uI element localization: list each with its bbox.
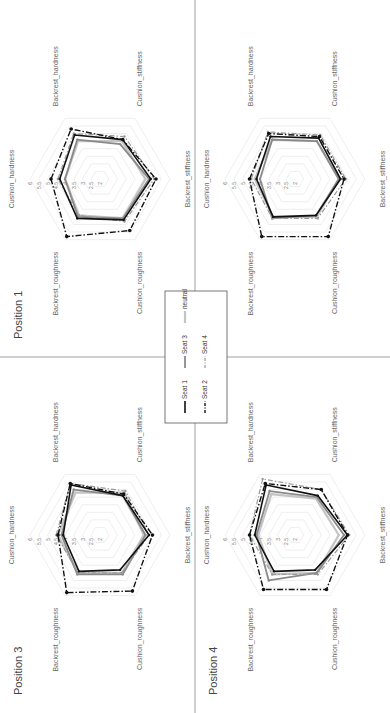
radar-panel-position-1: Position 122.533.544.555.56Cushion_hardn… bbox=[8, 46, 192, 339]
data-point bbox=[144, 534, 146, 536]
tick-label: 6 bbox=[222, 182, 228, 185]
figure: Position 122.533.544.555.56Cushion_hardn… bbox=[0, 0, 390, 713]
axis-label: Backrest_stiffness bbox=[379, 506, 387, 563]
data-point bbox=[338, 534, 340, 536]
grid-ring bbox=[83, 520, 118, 550]
data-point bbox=[78, 214, 80, 216]
tick-label: 2.5 bbox=[283, 538, 289, 545]
tick-label: 5.5 bbox=[231, 182, 237, 189]
data-point bbox=[272, 216, 274, 218]
series-seat-1 bbox=[63, 485, 149, 571]
data-point bbox=[262, 588, 266, 592]
axis-label: Cushion_roughness bbox=[331, 607, 339, 670]
data-point bbox=[260, 235, 264, 239]
series-seat-1 bbox=[60, 135, 151, 220]
axis-label: Cushion_stiffness bbox=[331, 407, 339, 463]
axis-label: Cushion_hardness bbox=[203, 149, 211, 208]
legend-label: Seat 4 bbox=[201, 335, 208, 354]
axis-label: Backrest_roughness bbox=[52, 251, 60, 315]
tick-label: 3 bbox=[80, 538, 86, 541]
data-point bbox=[269, 135, 271, 137]
data-point bbox=[259, 178, 261, 180]
axis-label: Cushion_hardness bbox=[8, 505, 16, 564]
tick-label: 6 bbox=[27, 538, 33, 541]
tick-label: 3.5 bbox=[71, 182, 77, 189]
data-point bbox=[318, 135, 322, 139]
axis-label: Backrest_roughness bbox=[247, 607, 255, 671]
grid-ring bbox=[269, 512, 322, 557]
grid-ring bbox=[260, 505, 330, 566]
data-point bbox=[123, 135, 125, 137]
data-point bbox=[248, 533, 252, 537]
tick-label: 3 bbox=[275, 182, 281, 185]
grid-ring bbox=[243, 134, 348, 225]
data-point bbox=[317, 573, 319, 575]
data-point bbox=[314, 569, 316, 571]
data-point bbox=[62, 534, 64, 536]
axis-label: Backrest_hardness bbox=[247, 402, 255, 462]
data-point bbox=[65, 235, 69, 239]
tick-label: 2.5 bbox=[88, 538, 94, 545]
grid-ring bbox=[278, 520, 313, 550]
data-point bbox=[248, 177, 252, 181]
data-point bbox=[150, 178, 152, 180]
data-point bbox=[131, 589, 135, 593]
data-point bbox=[144, 178, 146, 180]
axis-label: Backrest_stiffness bbox=[184, 150, 192, 207]
data-point bbox=[317, 217, 319, 219]
grid-ring bbox=[74, 156, 127, 201]
legend-label: neutral bbox=[181, 289, 188, 309]
axis-label: Backrest_hardness bbox=[52, 402, 60, 462]
data-point bbox=[151, 533, 155, 537]
data-point bbox=[263, 482, 267, 486]
data-point bbox=[76, 217, 78, 219]
data-point bbox=[316, 140, 318, 142]
data-point bbox=[119, 569, 121, 571]
axis-label: Cushion_roughness bbox=[136, 607, 144, 670]
data-point bbox=[78, 570, 80, 572]
data-point bbox=[65, 591, 69, 595]
data-point bbox=[121, 572, 123, 574]
data-point bbox=[255, 178, 257, 180]
legend-label: Seat 1 bbox=[181, 380, 188, 399]
data-point bbox=[346, 533, 350, 537]
tick-label: 6 bbox=[222, 538, 228, 541]
data-point bbox=[122, 219, 124, 221]
data-point bbox=[49, 177, 53, 181]
data-point bbox=[319, 488, 323, 492]
grid-ring bbox=[74, 512, 127, 557]
data-point bbox=[261, 478, 263, 480]
data-point bbox=[270, 493, 272, 495]
data-point bbox=[342, 177, 346, 181]
tick-label: 2 bbox=[292, 538, 298, 541]
data-point bbox=[343, 534, 345, 536]
data-point bbox=[76, 138, 78, 140]
legend-label: Seat 2 bbox=[201, 380, 208, 399]
axis-label: Cushion_stiffness bbox=[136, 51, 144, 107]
axis-label: Cushion_roughness bbox=[331, 251, 339, 314]
data-point bbox=[339, 178, 341, 180]
data-point bbox=[271, 573, 273, 575]
data-point bbox=[68, 482, 72, 486]
grid-ring bbox=[65, 505, 135, 566]
legend-label: Seat 3 bbox=[181, 335, 188, 354]
data-point bbox=[148, 534, 150, 536]
tick-label: 3 bbox=[275, 538, 281, 541]
tick-label: 2 bbox=[97, 538, 103, 541]
data-point bbox=[122, 492, 126, 496]
data-point bbox=[273, 570, 275, 572]
data-point bbox=[154, 177, 158, 181]
data-point bbox=[128, 229, 132, 233]
grid-ring bbox=[65, 149, 135, 210]
panel-title: Position 4 bbox=[207, 647, 219, 695]
data-point bbox=[74, 491, 76, 493]
data-point bbox=[317, 494, 319, 496]
radar-figure: Position 122.533.544.555.56Cushion_hardn… bbox=[0, 0, 390, 713]
axis-label: Cushion_hardness bbox=[8, 149, 16, 208]
tick-label: 2.5 bbox=[283, 182, 289, 189]
axis-label: Backrest_stiffness bbox=[379, 150, 387, 207]
radar-panel-position-2: Position 222.533.544.555.56Cushion_hardn… bbox=[203, 46, 387, 339]
axis-label: Cushion_stiffness bbox=[136, 407, 144, 463]
tick-label: 3.5 bbox=[71, 538, 77, 545]
data-point bbox=[69, 127, 73, 131]
